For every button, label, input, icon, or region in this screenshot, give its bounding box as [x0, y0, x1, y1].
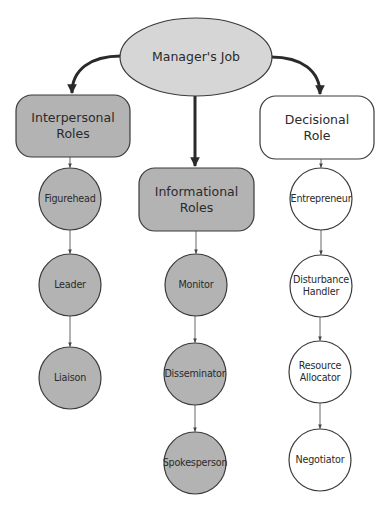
- role-node-monitor: [165, 254, 227, 316]
- root-node-managers-job: [120, 18, 272, 96]
- category-box-decisional: [260, 96, 374, 159]
- connector-root-to-interpersonal: [72, 56, 121, 93]
- connector-root-to-decisional: [271, 57, 320, 94]
- role-node-negotiator: [289, 429, 351, 491]
- role-node-entrepreneur: [290, 168, 352, 230]
- role-node-leader: [39, 254, 101, 316]
- role-node-spokesperson: [164, 432, 226, 494]
- role-node-figurehead: [39, 168, 101, 230]
- category-box-interpersonal: [16, 95, 130, 157]
- role-node-disturbance-handler: [290, 255, 352, 317]
- role-node-disseminator: [164, 343, 226, 405]
- diagram-canvas: [0, 0, 388, 510]
- managers-job-diagram: Manager's Job Interpersonal Roles Inform…: [0, 0, 388, 510]
- category-box-informational: [139, 168, 254, 231]
- role-node-liaison: [39, 347, 101, 409]
- role-node-resource-allocator: [289, 341, 351, 403]
